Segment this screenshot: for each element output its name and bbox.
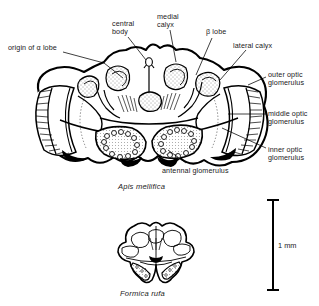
caption-formica-rufa: Formica rufa <box>120 289 165 298</box>
label-medial-calyx: medial calyx <box>157 13 179 30</box>
central-body <box>139 92 162 111</box>
lateral-calyx-left <box>78 76 99 97</box>
label-inner-optic-glomerulus: inner optic glomerulus <box>268 146 304 163</box>
label-origin-alpha-lobe: origin of α lobe <box>8 44 57 52</box>
label-antennal-glomerulus: antennal glomerulus <box>162 167 229 175</box>
apis-brain-drawing <box>30 44 270 167</box>
label-beta-lobe: β lobe <box>206 28 226 36</box>
scale-bar-label: 1 mm <box>278 241 296 250</box>
label-central-body: central body <box>112 20 134 37</box>
formica-brain-drawing <box>118 223 194 283</box>
caption-apis-mellifica: Apis mellifica <box>118 182 165 191</box>
label-outer-optic-glomerulus: outer optic glomerulus <box>268 71 304 88</box>
label-lateral-calyx: lateral calyx <box>233 42 272 50</box>
label-middle-optic-glomerulus: middle optic glomerulus <box>268 110 308 127</box>
central-body-knob <box>146 58 153 66</box>
